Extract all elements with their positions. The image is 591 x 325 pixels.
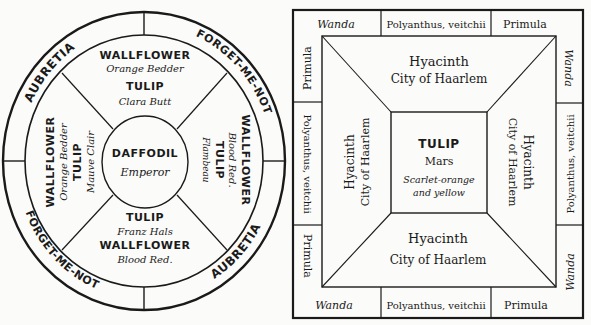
center-note: Scarlet-orange xyxy=(403,174,475,185)
border-label: Wanda xyxy=(315,299,353,312)
segment-text: Blood Red. xyxy=(227,131,238,187)
segment-text: Orange Bedder xyxy=(58,122,69,201)
border-label: Primula xyxy=(301,234,314,278)
segment-text: TULIP xyxy=(213,141,226,179)
round-bottom-segment: TULIP Franz Hals WALLFLOWER Blood Red. xyxy=(100,211,191,265)
ring-label-top-right: FORGET-ME-NOT xyxy=(194,27,274,116)
center-note: and yellow xyxy=(413,187,465,198)
square-top-panel: Hyacinth City of Haarlem xyxy=(391,54,488,86)
border-left: Primula Polyanthus, veitchii Primula xyxy=(301,46,314,279)
border-label: Polyanthus, veitchii xyxy=(386,19,485,30)
segment-text: WALLFLOWER xyxy=(100,239,191,252)
segment-text: TULIP xyxy=(126,80,164,93)
border-label: Polyanthus, veitchii xyxy=(386,300,485,311)
border-bottom: Wanda Polyanthus, veitchii Primula xyxy=(315,299,548,312)
border-label: Polyanthus, veitchii xyxy=(565,114,576,213)
center-variety: Mars xyxy=(425,155,454,168)
panel-text: Hyacinth xyxy=(409,54,469,69)
panel-text: City of Haarlem xyxy=(390,253,487,267)
center-flower: DAFFODIL xyxy=(112,147,178,160)
segment-text: Clara Butt xyxy=(119,96,173,107)
segment-text: WALLFLOWER xyxy=(100,49,191,62)
round-left-segment: WALLFLOWER Orange Bedder TULIP Mauve Cla… xyxy=(44,117,96,208)
segment-text: Orange Bedder xyxy=(106,63,185,74)
square-center: TULIP Mars Scarlet-orange and yellow xyxy=(403,137,475,198)
panel-text: City of Haarlem xyxy=(506,118,519,207)
segment-text: WALLFLOWER xyxy=(239,115,252,206)
border-label: Wanda xyxy=(317,18,355,31)
round-top-segment: WALLFLOWER Orange Bedder TULIP Clara But… xyxy=(100,49,191,107)
segment-text: Franz Hals xyxy=(116,226,173,237)
border-top: Wanda Polyanthus, veitchii Primula xyxy=(317,18,547,31)
round-right-segment: WALLFLOWER Blood Red. TULIP Flambeau xyxy=(201,115,252,206)
segment-text: TULIP xyxy=(126,211,164,224)
border-label: Primula xyxy=(504,299,548,312)
center-circle-border xyxy=(102,116,188,208)
panel-text: City of Haarlem xyxy=(359,117,372,206)
panel-text: Hyacinth xyxy=(521,134,535,190)
segment-text: WALLFLOWER xyxy=(44,117,57,208)
segment-text: Mauve Clair xyxy=(85,130,96,194)
segment-text: TULIP xyxy=(71,143,84,181)
border-label: Primula xyxy=(503,18,547,31)
border-label: Wanda xyxy=(564,253,577,291)
border-label: Wanda xyxy=(562,49,575,87)
round-center: DAFFODIL Emperor xyxy=(112,147,178,179)
border-right: Wanda Polyanthus, veitchii Wanda xyxy=(562,49,577,291)
square-right-panel: Hyacinth City of Haarlem xyxy=(506,118,535,207)
panel-text: Hyacinth xyxy=(408,231,468,246)
square-bottom-panel: Hyacinth City of Haarlem xyxy=(390,231,487,267)
segment-text: Flambeau xyxy=(201,136,211,182)
panel-text: Hyacinth xyxy=(343,134,357,190)
center-variety: Emperor xyxy=(119,166,170,179)
planting-plans: AUBRETIA FORGET-ME-NOT FORGET-ME-NOT AUB… xyxy=(0,0,591,325)
panel-text: City of Haarlem xyxy=(391,72,488,86)
border-label: Primula xyxy=(301,46,314,90)
square-left-panel: Hyacinth City of Haarlem xyxy=(343,117,372,206)
center-flower: TULIP xyxy=(418,137,459,151)
segment-text: Blood Red. xyxy=(116,254,172,265)
border-label: Polyanthus, veitchii xyxy=(302,114,313,213)
